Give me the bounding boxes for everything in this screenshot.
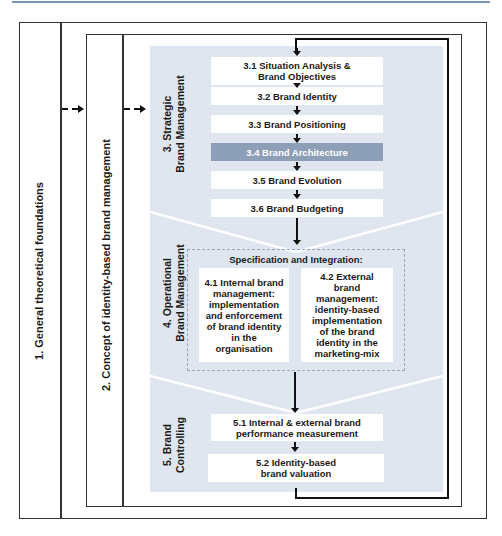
feedback-loop (0, 0, 502, 536)
